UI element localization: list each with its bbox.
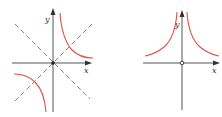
curve-left-branch bbox=[145, 12, 177, 56]
x-axis-label: x bbox=[84, 66, 89, 75]
y-axis-label: y bbox=[174, 20, 180, 29]
y-axis-arrow-icon bbox=[51, 8, 56, 15]
x-axis-arrow-icon bbox=[85, 61, 92, 66]
left-graph: y x bbox=[12, 8, 93, 112]
figure-canvas: y x y x bbox=[0, 0, 222, 117]
origin-point bbox=[51, 61, 55, 65]
right-graph: y x bbox=[143, 10, 220, 110]
y-axis-label: y bbox=[44, 15, 50, 24]
curve-right-branch bbox=[187, 12, 219, 56]
x-axis-arrow-icon bbox=[213, 61, 220, 66]
hyperbola-branch-q3 bbox=[14, 74, 46, 112]
origin-open-circle bbox=[180, 61, 184, 65]
x-axis-label: x bbox=[212, 66, 217, 75]
hyperbola-branch-q1 bbox=[60, 13, 93, 58]
y-axis-arrow-icon bbox=[180, 10, 185, 17]
